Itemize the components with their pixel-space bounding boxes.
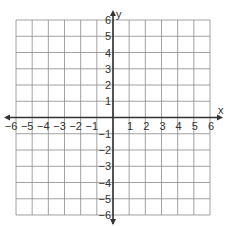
y-tick-label: −4 xyxy=(98,177,111,189)
x-tick-label: −4 xyxy=(37,120,50,132)
y-tick-label: 1 xyxy=(105,95,111,107)
y-tick-label: −1 xyxy=(98,128,111,140)
y-tick-label: 6 xyxy=(105,14,111,26)
y-axis-label: y xyxy=(116,8,122,20)
x-tick-label: 3 xyxy=(159,120,165,132)
x-tick-label: 2 xyxy=(143,120,149,132)
x-tick-label: 1 xyxy=(127,120,133,132)
x-tick-label: −6 xyxy=(5,120,18,132)
x-tick-label: 5 xyxy=(192,120,198,132)
y-tick-label: 2 xyxy=(105,79,111,91)
x-tick-label: 4 xyxy=(176,120,182,132)
y-tick-label: −3 xyxy=(98,160,111,172)
x-tick-label: −2 xyxy=(69,120,82,132)
y-tick-label: 4 xyxy=(105,47,111,59)
y-tick-label: −5 xyxy=(98,193,111,205)
y-tick-label: −2 xyxy=(98,144,111,156)
x-tick-label: 6 xyxy=(208,120,214,132)
y-tick-label: 5 xyxy=(105,30,111,42)
y-tick-label: −6 xyxy=(98,209,111,221)
coordinate-plane: −6−5−4−3−2−1123456654321−1−2−3−4−5−6 x y xyxy=(0,0,229,226)
axes xyxy=(4,10,223,225)
x-tick-label: −5 xyxy=(21,120,34,132)
x-tick-label: −1 xyxy=(86,120,99,132)
y-tick-label: 3 xyxy=(105,63,111,75)
x-axis-label: x xyxy=(218,104,224,116)
x-tick-label: −3 xyxy=(53,120,66,132)
